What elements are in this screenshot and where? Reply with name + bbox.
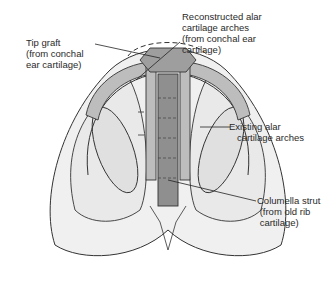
right-medial-crus [180,62,190,180]
label-reconstructed-arches: Reconstructed alar cartilage arches (fro… [182,11,262,55]
label-existing-arches: Existing alar cartilage arches [229,121,304,143]
label-columella-strut: Columella strut (from old rib cartilage) [257,195,320,228]
left-medial-crus [146,62,156,180]
columella-strut [158,74,178,206]
label-tip-graft: Tip graft (from conchal ear cartilage) [26,37,84,70]
